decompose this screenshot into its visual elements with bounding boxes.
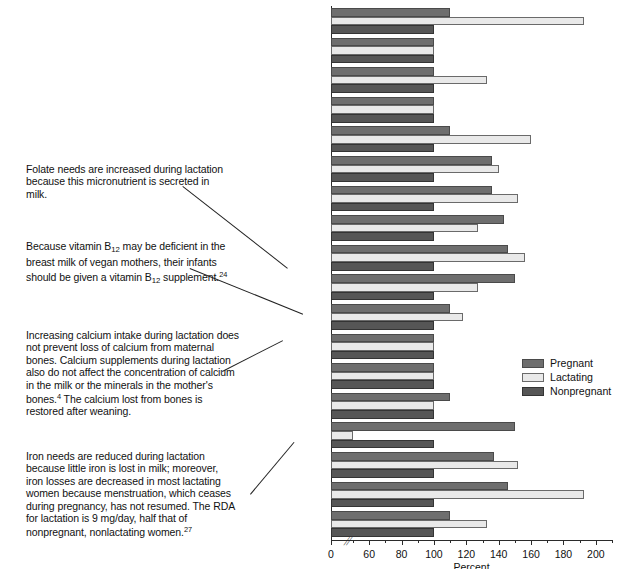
annotation-folate-note: Folate needs are increased during lactat… xyxy=(26,163,226,200)
leader-line-iron xyxy=(250,442,294,495)
x-tick-minor xyxy=(515,540,516,543)
bar-preg xyxy=(331,363,434,372)
bar-group: Iodine xyxy=(331,482,611,508)
bar-preg xyxy=(331,452,494,461)
bar-group: Vitamin D xyxy=(331,38,611,64)
bar-preg xyxy=(331,38,434,47)
x-axis-label: Percent xyxy=(331,561,612,569)
annotation-iron-note: Iron needs are reduced during lactation … xyxy=(26,450,236,539)
annotation-calcium-note: Increasing calcium intake during lactati… xyxy=(26,329,241,418)
bar-nonp xyxy=(331,173,434,182)
bar-lact xyxy=(331,135,531,144)
annotation-b12-note: Because vitamin B12 may be deficient in … xyxy=(26,240,236,287)
x-axis-line xyxy=(331,540,612,541)
x-tick-minor xyxy=(353,540,354,543)
bar-nonp xyxy=(331,262,434,271)
bar-nonp xyxy=(331,528,434,537)
bar-lact xyxy=(331,224,478,233)
bar-group: Zinc xyxy=(331,452,611,478)
bar-preg xyxy=(331,97,434,106)
x-tick-label: 120 xyxy=(458,548,476,560)
bar-group: Vitamin K xyxy=(331,97,611,123)
bar-group: Vitamin E xyxy=(331,67,611,93)
bar-group: Vitamin A xyxy=(331,8,611,34)
x-tick-minor xyxy=(547,540,548,543)
legend-item-nonpregnant: Nonpregnant xyxy=(522,385,611,397)
legend-swatch-pregnant xyxy=(522,359,544,368)
x-tick-label: 100 xyxy=(425,548,443,560)
x-tick xyxy=(466,540,467,545)
x-tick-label: 0 xyxy=(328,548,334,560)
bar-lact xyxy=(331,401,434,410)
bar-lact xyxy=(331,194,518,203)
bar-group: Vitamin B12 xyxy=(331,304,611,330)
leader-line-b12 xyxy=(190,268,303,315)
plot-area: Vitamin AVitamin DVitamin EVitamin KVita… xyxy=(331,6,611,540)
bar-nonp xyxy=(331,55,434,64)
x-tick-minor xyxy=(418,540,419,543)
x-tick-minor xyxy=(483,540,484,543)
bar-preg xyxy=(331,334,434,343)
bar-nonp xyxy=(331,410,434,419)
bar-preg xyxy=(331,156,492,165)
bar-lact xyxy=(331,76,487,85)
x-tick xyxy=(499,540,500,545)
bar-lact xyxy=(331,520,487,529)
bar-nonp xyxy=(331,380,434,389)
legend-label-pregnant: Pregnant xyxy=(550,357,593,369)
x-tick-label: 180 xyxy=(555,548,573,560)
bar-nonp xyxy=(331,144,434,153)
bar-nonp xyxy=(331,203,434,212)
bar-preg xyxy=(331,245,508,254)
bar-lact xyxy=(331,372,434,381)
bar-lact xyxy=(331,46,434,55)
x-tick xyxy=(596,540,597,545)
bar-preg xyxy=(331,215,504,224)
x-tick xyxy=(402,540,403,545)
bar-group: Iron xyxy=(331,422,611,448)
bar-nonp xyxy=(331,469,434,478)
x-tick xyxy=(531,540,532,545)
x-tick-label: 60 xyxy=(363,548,375,560)
bar-group: Selenium xyxy=(331,511,611,537)
x-tick xyxy=(434,540,435,545)
bar-lact xyxy=(331,17,584,26)
legend-swatch-nonpregnant xyxy=(522,387,544,396)
bar-lact xyxy=(331,490,584,499)
bar-nonp xyxy=(331,114,434,123)
bar-group: Vitamin C xyxy=(331,126,611,152)
x-tick xyxy=(369,540,370,545)
legend-swatch-lactating xyxy=(522,373,544,382)
bar-lact xyxy=(331,342,434,351)
bar-nonp xyxy=(331,232,434,241)
bar-preg xyxy=(331,67,434,76)
bar-lact xyxy=(331,283,478,292)
legend-label-lactating: Lactating xyxy=(550,371,593,383)
bar-preg xyxy=(331,393,450,402)
bar-nonp xyxy=(331,499,434,508)
bar-preg xyxy=(331,482,508,491)
bar-group: Niacin xyxy=(331,215,611,241)
bar-preg xyxy=(331,126,450,135)
bar-lact xyxy=(331,253,525,262)
bar-preg xyxy=(331,304,450,313)
bar-lact xyxy=(331,313,463,322)
bar-nonp xyxy=(331,84,434,93)
x-tick-label: 140 xyxy=(490,548,508,560)
bar-preg xyxy=(331,511,450,520)
x-tick-minor xyxy=(612,540,613,543)
bar-nonp xyxy=(331,25,434,34)
bar-lact xyxy=(331,461,518,470)
bar-nonp xyxy=(331,351,434,360)
legend-item-lactating: Lactating xyxy=(522,371,611,383)
x-tick xyxy=(563,540,564,545)
bar-nonp xyxy=(331,321,434,330)
bar-group: Vitamin B6 xyxy=(331,245,611,271)
legend-item-pregnant: Pregnant xyxy=(522,357,611,369)
bar-lact xyxy=(331,431,353,440)
bar-group: Thiamin xyxy=(331,156,611,182)
bar-group: Riboflavin xyxy=(331,186,611,212)
bar-preg xyxy=(331,274,515,283)
x-tick-label: 160 xyxy=(522,548,540,560)
bar-preg xyxy=(331,422,515,431)
